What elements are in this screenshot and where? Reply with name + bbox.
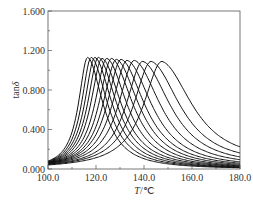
y-tick-label: 0.000 xyxy=(23,164,46,175)
y-tick-label: 0.400 xyxy=(23,124,46,135)
y-tick-label: 0.800 xyxy=(23,85,46,96)
x-axis-tick-labels: 100.0120.0140.0160.0180.0 xyxy=(37,172,252,183)
y-axis-title: tanδ xyxy=(10,81,21,98)
x-tick-label: 140.0 xyxy=(133,172,156,183)
y-axis-tick-labels: 0.0000.4000.8001.2001.600 xyxy=(23,6,46,175)
plot-frame xyxy=(48,11,240,169)
x-tick-label: 160.0 xyxy=(181,172,204,183)
y-tick-label: 1.200 xyxy=(23,45,46,56)
axis-ticks xyxy=(48,11,240,169)
y-tick-label: 1.600 xyxy=(23,6,46,17)
x-axis-title: T/℃ xyxy=(134,185,153,196)
data-series xyxy=(48,57,240,167)
tan-delta-chart: 100.0120.0140.0160.0180.0 0.0000.4000.80… xyxy=(0,0,253,207)
x-tick-label: 120.0 xyxy=(85,172,108,183)
x-tick-label: 180.0 xyxy=(229,172,252,183)
